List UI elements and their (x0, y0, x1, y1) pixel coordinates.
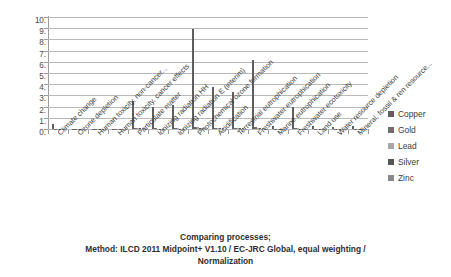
legend-item[interactable]: Copper (388, 106, 450, 122)
y-axis-tick-mark (44, 84, 48, 85)
gridline (48, 51, 368, 52)
legend-item-label: Copper (398, 110, 425, 119)
gridline (48, 62, 368, 63)
x-axis-tick-mark (348, 130, 349, 134)
x-axis-tick-mark (168, 130, 169, 134)
x-axis-tick-mark (68, 130, 69, 134)
y-axis-tick-label: 8. (39, 39, 46, 47)
x-axis-tick-mark (328, 130, 329, 134)
y-axis-tick-label: 5. (39, 73, 46, 81)
y-axis-tick-mark (44, 62, 48, 63)
caption-line-3: Normalization (0, 255, 451, 267)
chart-caption: Comparing processes; Method: ILCD 2011 M… (0, 231, 451, 267)
legend-item-label: Zinc (398, 174, 414, 183)
y-axis-tick-mark (44, 95, 48, 96)
x-axis-tick-mark (48, 130, 49, 134)
y-axis-tick-mark (44, 73, 48, 74)
chart-legend: CopperGoldLeadSilverZinc (388, 106, 450, 186)
legend-item-label: Lead (398, 142, 417, 151)
y-axis-tick-label: 3. (39, 95, 46, 103)
x-axis-tick-mark (248, 130, 249, 134)
x-axis-tick-mark (208, 130, 209, 134)
y-axis-tick-mark (44, 107, 48, 108)
y-axis-tick-label: 2. (39, 107, 46, 115)
caption-line-2: Method: ILCD 2011 Midpoint+ V1.10 / EC-J… (0, 243, 451, 255)
y-axis-tick-label: 6. (39, 62, 46, 70)
x-axis-tick-mark (368, 130, 369, 134)
y-axis-tick-mark (44, 17, 48, 18)
legend-item[interactable]: Zinc (388, 170, 450, 186)
x-axis-tick-mark (288, 130, 289, 134)
y-axis-tick-mark (44, 51, 48, 52)
legend-item[interactable]: Gold (388, 122, 450, 138)
x-axis-tick-mark (148, 130, 149, 134)
gridline (48, 28, 368, 29)
x-axis-tick-mark (128, 130, 129, 134)
x-axis-tick-mark (228, 130, 229, 134)
legend-swatch-icon (388, 111, 394, 117)
chart-page: 10.9.8.7.6.5.4.3.2.1.0. Climate changeOz… (0, 0, 451, 277)
legend-item[interactable]: Silver (388, 154, 450, 170)
x-axis-tick-mark (88, 130, 89, 134)
legend-item-label: Gold (398, 126, 416, 135)
y-axis-tick-label: 4. (39, 84, 46, 92)
x-axis-category-labels: Climate changeOzone depletionHuman toxic… (0, 129, 451, 225)
x-axis-tick-mark (188, 130, 189, 134)
y-axis-tick-mark (44, 39, 48, 40)
gridline (48, 39, 368, 40)
legend-swatch-icon (388, 159, 394, 165)
y-axis-tick-labels: 10.9.8.7.6.5.4.3.2.1.0. (14, 12, 46, 136)
legend-swatch-icon (388, 143, 394, 149)
legend-swatch-icon (388, 175, 394, 181)
x-axis-tick-mark (268, 130, 269, 134)
gridline (48, 17, 368, 18)
legend-item-label: Silver (398, 158, 419, 167)
legend-item[interactable]: Lead (388, 138, 450, 154)
y-axis-tick-mark (44, 118, 48, 119)
y-axis-tick-label: 7. (39, 51, 46, 59)
y-axis-tick-label: 10. (35, 17, 46, 25)
y-axis-tick-mark (44, 28, 48, 29)
legend-swatch-icon (388, 127, 394, 133)
y-axis-tick-label: 1. (39, 118, 46, 126)
y-axis-tick-label: 9. (39, 28, 46, 36)
chart-plot-region: 10.9.8.7.6.5.4.3.2.1.0. Climate changeOz… (0, 0, 451, 225)
x-axis-tick-mark (108, 130, 109, 134)
caption-line-1: Comparing processes; (0, 231, 451, 243)
x-axis-tick-mark (308, 130, 309, 134)
